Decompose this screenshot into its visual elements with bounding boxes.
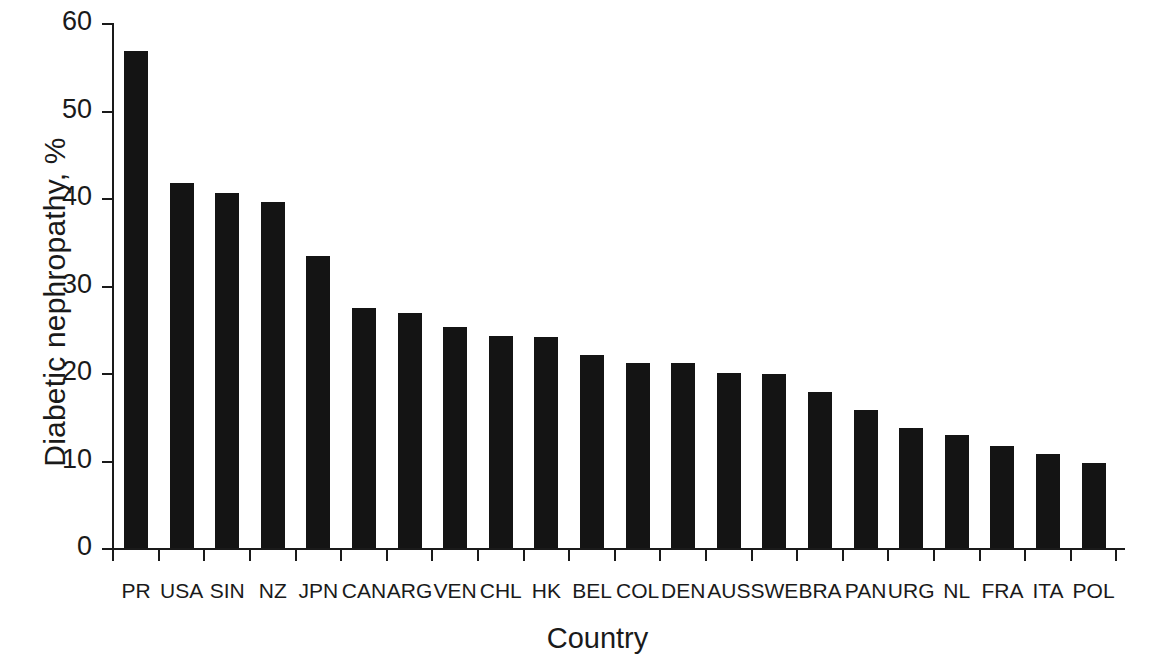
bar <box>1082 463 1106 548</box>
y-axis-tick-label: 0 <box>32 531 92 562</box>
bar <box>398 313 422 548</box>
x-axis-tick <box>386 550 388 561</box>
y-axis-tick <box>102 111 113 113</box>
bar <box>717 373 741 548</box>
x-axis-tick <box>1115 550 1117 561</box>
y-axis-tick <box>102 286 113 288</box>
x-axis-tick <box>796 550 798 561</box>
bar <box>352 308 376 548</box>
x-axis-tick <box>203 550 205 561</box>
y-axis-tick-label: 40 <box>32 181 92 212</box>
x-axis-tick <box>705 550 707 561</box>
bar <box>306 256 330 548</box>
x-axis-tick <box>158 550 160 561</box>
y-axis-tick-label: 60 <box>32 6 92 37</box>
x-axis-tick <box>523 550 525 561</box>
y-axis-tick <box>102 23 113 25</box>
x-axis-tick <box>751 550 753 561</box>
bar <box>854 410 878 548</box>
bar <box>261 202 285 549</box>
x-axis-tick <box>614 550 616 561</box>
bar <box>580 355 604 548</box>
x-axis-tick <box>431 550 433 561</box>
x-axis-tick <box>659 550 661 561</box>
x-axis-category-label: POL <box>1054 579 1134 603</box>
bar <box>762 374 786 548</box>
bar <box>626 363 650 549</box>
x-axis-tick <box>887 550 889 561</box>
bar-chart-figure: Diabetic nephropathy, % 6050403020100 PR… <box>0 0 1165 671</box>
x-axis-tick <box>1070 550 1072 561</box>
x-axis-tick <box>295 550 297 561</box>
bar <box>808 392 832 548</box>
x-axis-tick <box>568 550 570 561</box>
bar <box>124 51 148 548</box>
x-axis-tick <box>979 550 981 561</box>
x-axis-tick <box>477 550 479 561</box>
bar <box>945 435 969 548</box>
y-axis-tick <box>102 198 113 200</box>
y-axis-tick <box>102 461 113 463</box>
x-axis-line <box>112 548 1125 550</box>
bar <box>899 428 923 548</box>
y-axis-tick-label: 50 <box>32 94 92 125</box>
y-axis-tick-label: 10 <box>32 444 92 475</box>
bar <box>443 327 467 548</box>
x-axis-tick <box>112 550 114 561</box>
bar <box>534 337 558 548</box>
y-axis-tick-label: 20 <box>32 356 92 387</box>
bar <box>215 193 239 548</box>
x-axis-tick <box>340 550 342 561</box>
plot-area: 6050403020100 PRUSASINNZJPNCANARGVENCHLH… <box>124 23 1135 549</box>
bar <box>671 363 695 548</box>
y-axis-tick <box>102 373 113 375</box>
x-axis-title-text: Country <box>517 622 649 654</box>
x-axis-tick <box>1024 550 1026 561</box>
bar <box>489 336 513 548</box>
bar <box>990 446 1014 548</box>
x-axis-title: Country <box>0 622 1165 655</box>
y-axis-tick-label: 30 <box>32 269 92 300</box>
x-axis-tick <box>842 550 844 561</box>
bar <box>170 183 194 548</box>
bar <box>1036 454 1060 548</box>
x-axis-tick <box>249 550 251 561</box>
x-axis-tick <box>933 550 935 561</box>
